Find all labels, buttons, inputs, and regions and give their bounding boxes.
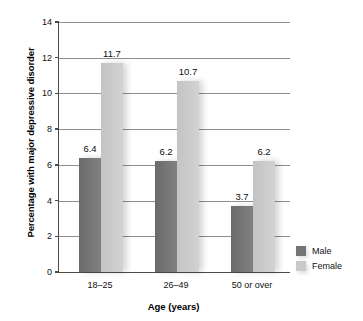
legend-swatch-icon: [296, 246, 306, 256]
y-axis-tick-mark: [55, 200, 59, 201]
y-axis-tick-mark: [55, 93, 59, 94]
x-axis-title: Age (years): [58, 301, 289, 312]
x-axis-tick-label: 26–49: [137, 280, 215, 290]
bar-female-2: [253, 161, 275, 272]
y-axis-tick-mark: [55, 164, 59, 165]
x-axis-tick-label: 18–25: [61, 280, 139, 290]
bar-female-0: [101, 63, 123, 272]
bar-value-label: 6.2: [146, 146, 186, 157]
y-axis-tick-mark: [55, 21, 59, 22]
y-axis-tick-label: 4: [47, 196, 52, 206]
bar-chart: Percentage with major depressive disorde…: [0, 0, 363, 321]
y-axis-tick-label: 10: [42, 88, 52, 98]
bar-value-label: 6.4: [70, 143, 110, 154]
y-axis-tick-label: 12: [42, 53, 52, 63]
gridline: [59, 93, 290, 94]
legend-item[interactable]: Male: [296, 243, 342, 258]
y-axis-tick-label: 6: [47, 160, 52, 170]
bar-male-2: [231, 206, 253, 272]
legend-item[interactable]: Female: [296, 258, 342, 273]
bar-value-label: 11.7: [92, 48, 132, 59]
bar-male-0: [79, 158, 101, 272]
y-axis-tick-label: 8: [47, 124, 52, 134]
y-axis-tick-mark: [55, 236, 59, 237]
y-axis-tick-label: 0: [47, 267, 52, 277]
y-axis-tick-mark: [55, 57, 59, 58]
y-axis-title: Percentage with major depressive disorde…: [25, 18, 36, 268]
y-axis-tick-label: 14: [42, 17, 52, 27]
bar-male-1: [155, 161, 177, 272]
y-axis-tick-label: 2: [47, 231, 52, 241]
y-axis-tick-mark: [55, 271, 59, 272]
legend-label: Female: [312, 261, 342, 271]
y-axis-tick-mark: [55, 128, 59, 129]
bar-female-1: [177, 81, 199, 272]
bar-value-label: 10.7: [168, 66, 208, 77]
gridline: [59, 22, 290, 23]
plot-area: 024681012146.411.76.210.73.76.2: [58, 22, 290, 273]
bar-value-label: 6.2: [244, 146, 284, 157]
legend-swatch-icon: [296, 261, 306, 271]
legend-label: Male: [312, 246, 332, 256]
bar-value-label: 3.7: [222, 191, 262, 202]
chart-legend: MaleFemale: [296, 243, 342, 273]
gridline: [59, 129, 290, 130]
x-axis-tick-label: 50 or over: [213, 280, 291, 290]
